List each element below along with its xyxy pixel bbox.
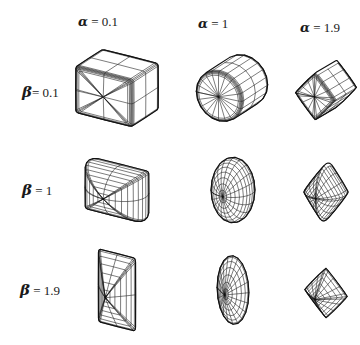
alpha-symbol: α <box>198 16 208 31</box>
row-label-beta-2: β = 1.9 <box>20 281 60 299</box>
alpha-symbol: α <box>300 20 310 35</box>
beta-symbol: β <box>22 83 32 101</box>
beta-symbol: β <box>20 281 30 299</box>
superquadric-flattened-ellipsoid <box>188 240 278 340</box>
row-label-value: = 1.9 <box>30 283 60 298</box>
column-header-alpha-1: α = 1 <box>198 16 228 32</box>
superquadric-pinched-star-box <box>292 42 360 138</box>
superquadric-pinched-prism <box>62 240 172 340</box>
alpha-symbol: α <box>78 14 88 29</box>
column-header-alpha-2: α = 1.9 <box>300 20 340 36</box>
row-label-value: = 0.1 <box>32 85 59 100</box>
superquadric-barrel-ellipsoid <box>186 38 278 138</box>
superquadric-pinched-cone <box>292 144 360 240</box>
superquadric-figure: α = 0.1 α = 1 α = 1.9 β= 0.1 β = 1 β = 1… <box>0 0 360 345</box>
row-label-value: = 1 <box>32 183 52 198</box>
row-label-beta-1: β = 1 <box>22 181 52 199</box>
column-header-value: = 1 <box>211 16 228 31</box>
column-header-value: = 1.9 <box>313 20 340 35</box>
beta-symbol: β <box>22 181 32 199</box>
row-label-beta-0: β= 0.1 <box>22 83 59 101</box>
superquadric-cylinder <box>62 140 172 240</box>
column-header-alpha-0: α = 0.1 <box>78 14 118 30</box>
superquadric-rounded-cuboid <box>62 38 172 138</box>
superquadric-pinched-double-cone <box>292 246 360 340</box>
column-header-value: = 0.1 <box>91 14 118 29</box>
superquadric-ellipsoid <box>188 140 278 240</box>
